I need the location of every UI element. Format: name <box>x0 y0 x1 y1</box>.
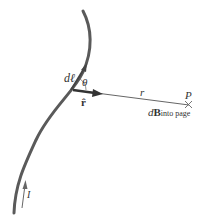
rhat-arrowhead-icon <box>92 89 103 97</box>
rhat-label: r̂ <box>81 97 86 108</box>
current-arrowhead-icon <box>23 180 28 189</box>
db-subscript: into page <box>161 109 191 118</box>
theta-label: θ <box>82 77 87 88</box>
r-label: r <box>140 87 144 98</box>
biot-savart-diagram: dℓ θ r̂ r P dBinto page I <box>0 0 206 224</box>
db-label: dBinto page <box>148 107 190 118</box>
db-b: B <box>154 106 161 118</box>
p-label: P <box>185 90 192 101</box>
dl-label: dℓ <box>64 72 75 84</box>
current-label: I <box>27 190 30 200</box>
rhat-vector <box>73 90 95 93</box>
